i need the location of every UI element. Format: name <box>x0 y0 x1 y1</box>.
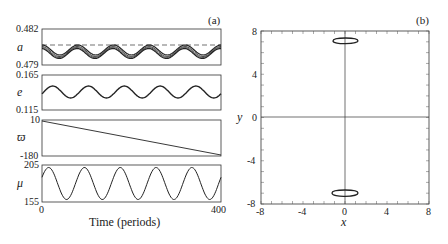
time-xlabel: Time (periods) <box>89 215 160 229</box>
y-tick-8: 8 <box>252 26 257 37</box>
e-curve <box>42 86 221 98</box>
a-ylabel: a <box>17 40 23 54</box>
panel-b-label: (b) <box>416 14 429 27</box>
x-tick-400: 400 <box>211 204 226 215</box>
y-tick-0: 0 <box>252 112 257 123</box>
subplot-e: 0.165 0.115 e <box>16 69 221 115</box>
upper-loop <box>333 38 358 44</box>
y-tick-4: 4 <box>252 69 257 80</box>
e-ylabel: e <box>17 85 23 99</box>
phase-plot: 8 4 0 -4 -8 y -8 -4 0 4 8 x <box>236 26 431 229</box>
subplot-a: 0.482 0.479 a <box>16 23 221 70</box>
subplot-mu: 205 155 μ <box>16 159 221 207</box>
mu-curve <box>42 168 221 200</box>
x-tick-4: 4 <box>384 206 389 217</box>
subplot-varpi: 10 -180 ϖ <box>17 114 221 161</box>
y-tick-m4: -4 <box>247 155 255 166</box>
x-tick-0: 0 <box>39 204 44 215</box>
x-tick-m8: -8 <box>256 206 264 217</box>
e-ytick-top: 0.165 <box>16 69 39 80</box>
varpi-ylabel: ϖ <box>17 130 26 144</box>
mu-ytick-top: 205 <box>24 159 39 170</box>
a-ytick-top: 0.482 <box>16 23 39 34</box>
varpi-line <box>42 121 221 155</box>
figure: (a) 0.482 0.479 a 0.165 0.115 e 10 -180 … <box>0 0 448 244</box>
b-ylabel: y <box>236 110 243 124</box>
mu-ytick-bottom: 155 <box>24 196 39 207</box>
x-tick-m4: -4 <box>298 206 306 217</box>
varpi-ytick-top: 10 <box>30 114 40 125</box>
x-tick-8: 8 <box>426 206 431 217</box>
b-xlabel: x <box>340 215 347 229</box>
mu-ylabel: μ <box>16 176 23 190</box>
panel-a-label: (a) <box>208 14 221 27</box>
y-tick-m8: -8 <box>247 198 255 209</box>
